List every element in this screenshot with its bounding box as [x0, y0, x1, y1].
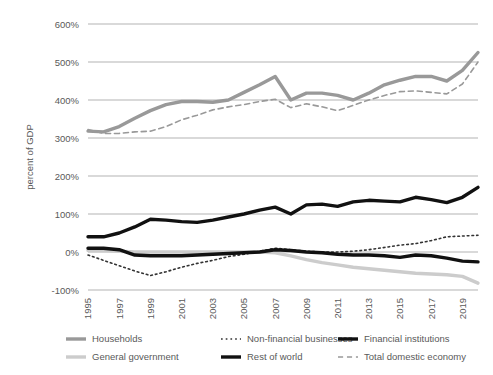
y-axis-title: percent of GDP [24, 124, 35, 189]
chart-container: -100%0%100%200%300%400%500%600% 19951997… [0, 0, 493, 375]
y-tick-label: 300% [55, 133, 80, 144]
x-tick-label: 2011 [332, 298, 343, 318]
x-tick-label: 2005 [238, 298, 249, 319]
y-tick-label: 200% [55, 171, 80, 182]
legend-item[interactable]: General government [66, 351, 179, 362]
legend-item[interactable]: Total domestic economy [338, 351, 466, 362]
legend-item[interactable]: Financial institutions [338, 333, 450, 344]
y-tick-label: 100% [55, 209, 80, 220]
x-tick-label: 2003 [207, 298, 218, 319]
legend-label: Households [92, 333, 142, 344]
legend-label: General government [92, 351, 179, 362]
legend-label: Non-financial businesses [247, 333, 353, 344]
y-axis-tick-labels: -100%0%100%200%300%400%500%600% [52, 19, 80, 296]
x-tick-label: 1999 [145, 298, 156, 319]
y-tick-label: -100% [52, 285, 80, 296]
x-tick-label: 2007 [270, 298, 281, 319]
y-tick-label: 400% [55, 95, 80, 106]
series-line [88, 187, 478, 236]
legend-item[interactable]: Households [66, 333, 142, 344]
legend-label: Rest of world [247, 351, 302, 362]
legend-item[interactable]: Rest of world [221, 351, 302, 362]
y-tick-label: 600% [55, 19, 80, 30]
legend-item[interactable]: Non-financial businesses [221, 333, 353, 344]
gdp-line-chart: -100%0%100%200%300%400%500%600% 19951997… [0, 0, 493, 375]
x-tick-label: 2015 [394, 298, 405, 319]
x-tick-label: 2019 [457, 298, 468, 319]
legend-label: Total domestic economy [364, 351, 466, 362]
x-tick-label: 1995 [82, 298, 93, 319]
legend-label: Financial institutions [364, 333, 450, 344]
x-tick-label: 2001 [176, 298, 187, 319]
x-tick-label: 2013 [363, 298, 374, 319]
y-tick-label: 0% [65, 247, 79, 258]
x-tick-label: 2009 [301, 298, 312, 319]
y-tick-label: 500% [55, 57, 80, 68]
series-layer [88, 53, 478, 284]
x-tick-label: 2017 [426, 298, 437, 319]
x-axis-tick-labels: 1995199719992001200320052007200920112013… [82, 298, 467, 319]
series-line [88, 62, 478, 133]
chart-legend: HouseholdsNon-financial businessesFinanc… [66, 333, 466, 362]
series-line [88, 53, 478, 132]
x-tick-label: 1997 [114, 298, 125, 319]
